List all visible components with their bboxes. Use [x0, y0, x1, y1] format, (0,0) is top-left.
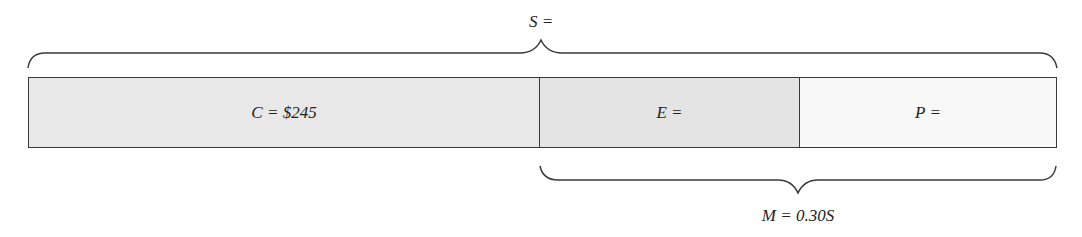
segment-expenses: E =	[539, 78, 799, 147]
total-label: S =	[529, 12, 553, 32]
top-brace	[28, 40, 1057, 68]
segment-cost: C = $245	[29, 78, 539, 147]
markup-label: M = 0.30S	[762, 206, 834, 226]
segment-profit: P =	[799, 78, 1056, 147]
bottom-brace	[540, 166, 1056, 193]
tape-bar: C = $245 E = P =	[28, 77, 1057, 148]
